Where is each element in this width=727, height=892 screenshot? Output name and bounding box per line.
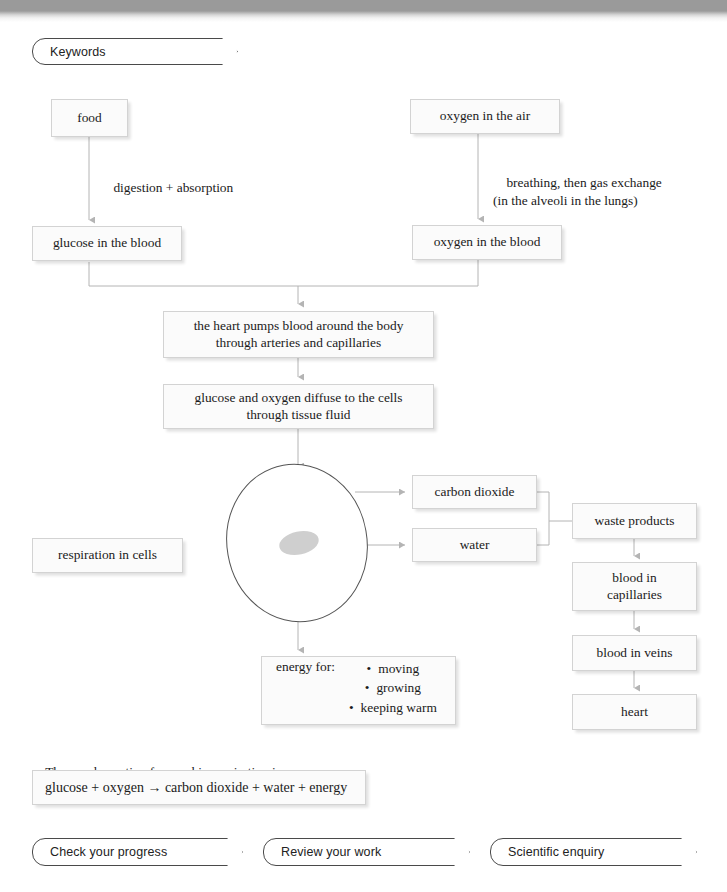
node-energy-for: energy for: moving growing keeping warm xyxy=(261,656,456,725)
node-heart-pumps-label: the heart pumps blood around the body th… xyxy=(194,318,404,352)
edge-label-breathing-text: breathing, then gas exchange (in the alv… xyxy=(493,175,662,207)
node-oxygen-in-blood-label: oxygen in the blood xyxy=(434,234,541,251)
top-gray-bar xyxy=(0,0,727,22)
node-food-label: food xyxy=(77,110,102,127)
review-your-work-label: Review your work xyxy=(281,845,381,859)
edge-label-digestion-text: digestion + absorption xyxy=(113,180,233,195)
review-your-work-button[interactable]: Review your work xyxy=(263,838,470,866)
node-respiration-in-cells-label: respiration in cells xyxy=(58,547,157,564)
node-heart-pumps: the heart pumps blood around the body th… xyxy=(163,311,434,358)
node-oxygen-in-air: oxygen in the air xyxy=(410,99,560,134)
node-oxygen-in-air-label: oxygen in the air xyxy=(440,108,530,125)
page-root: Keywords xyxy=(0,0,727,892)
node-heart: heart xyxy=(572,694,697,730)
cell-shape xyxy=(214,453,379,633)
energy-item: keeping warm xyxy=(349,698,437,717)
node-blood-in-capillaries-label: blood in capillaries xyxy=(607,570,662,604)
node-carbon-dioxide-label: carbon dioxide xyxy=(435,484,515,501)
node-waste-products: waste products xyxy=(572,503,697,539)
node-carbon-dioxide: carbon dioxide xyxy=(412,475,537,509)
edge-label-digestion: digestion + absorption xyxy=(100,162,233,214)
keywords-tab[interactable]: Keywords xyxy=(32,38,238,65)
node-water: water xyxy=(412,528,537,562)
energy-inner: energy for: moving growing keeping warm xyxy=(262,657,455,717)
equation-box: glucose + oxygen → carbon dioxide + wate… xyxy=(32,770,366,805)
energy-list: moving growing keeping warm xyxy=(349,659,437,717)
node-blood-in-capillaries: blood in capillaries xyxy=(572,562,697,611)
node-glucose-in-blood: glucose in the blood xyxy=(32,226,182,261)
node-blood-in-veins: blood in veins xyxy=(572,635,697,671)
equation-text: glucose + oxygen → carbon dioxide + wate… xyxy=(45,779,347,797)
scientific-enquiry-label: Scientific enquiry xyxy=(508,845,604,859)
node-respiration-in-cells: respiration in cells xyxy=(32,538,183,573)
node-water-label: water xyxy=(460,537,490,554)
node-diffuse-label: glucose and oxygen diffuse to the cells … xyxy=(195,390,403,424)
node-oxygen-in-blood: oxygen in the blood xyxy=(412,225,562,260)
energy-item: moving xyxy=(349,659,437,678)
energy-for-label: energy for: xyxy=(276,659,349,676)
keywords-tab-label: Keywords xyxy=(50,45,106,59)
node-glucose-in-blood-label: glucose in the blood xyxy=(53,235,161,252)
node-food: food xyxy=(51,99,128,137)
edge-label-breathing: breathing, then gas exchange (in the alv… xyxy=(493,157,662,227)
node-waste-products-label: waste products xyxy=(595,513,675,530)
energy-item: growing xyxy=(349,678,437,697)
check-your-progress-button[interactable]: Check your progress xyxy=(32,838,243,866)
node-blood-in-veins-label: blood in veins xyxy=(597,645,673,662)
node-heart-label: heart xyxy=(621,704,648,721)
check-your-progress-label: Check your progress xyxy=(50,845,167,859)
scientific-enquiry-button[interactable]: Scientific enquiry xyxy=(490,838,697,866)
node-diffuse: glucose and oxygen diffuse to the cells … xyxy=(163,384,434,429)
